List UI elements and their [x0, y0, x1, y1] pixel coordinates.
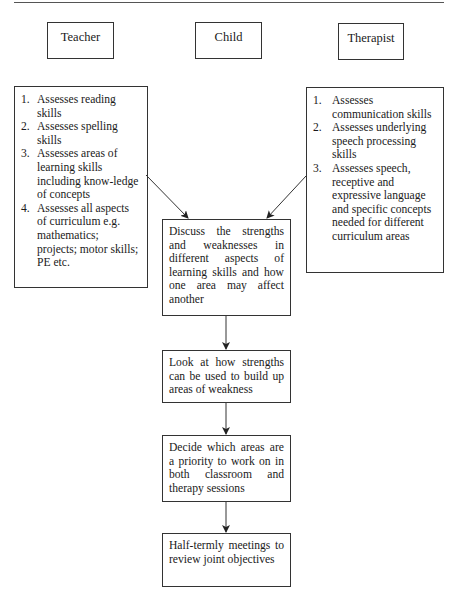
therapist-list-item: 2. Assesses underlying speech processing… [313, 121, 437, 162]
item-number: 4. [21, 202, 30, 216]
strengths-step-box: Look at how strengths can be used to bui… [162, 350, 291, 403]
item-text: Assesses reading skills [37, 93, 116, 120]
item-number: 1. [313, 94, 322, 108]
meetings-step-text: Half-termly meetings to review joint obj… [169, 539, 284, 566]
teacher-list-item: 3. Assesses areas of learning skills inc… [21, 147, 141, 201]
teacher-label: Teacher [61, 30, 100, 44]
therapist-list-item: 3. Assesses speech, receptive and expres… [313, 162, 437, 244]
arrow-teacher-to-discuss [146, 175, 188, 218]
item-number: 3. [313, 162, 322, 176]
item-text: Assesses communication skills [332, 94, 432, 121]
item-number: 3. [21, 147, 30, 161]
strengths-step-text: Look at how strengths can be used to bui… [169, 356, 284, 396]
discuss-step-box: Discuss the strengths and weaknesses in … [162, 219, 291, 316]
item-text: Assesses all aspects of curriculum e.g. … [37, 202, 138, 269]
item-number: 1. [21, 93, 30, 107]
meetings-step-box: Half-termly meetings to review joint obj… [162, 533, 291, 587]
item-number: 2. [313, 121, 322, 135]
teacher-list-item: 4. Assesses all aspects of curriculum e.… [21, 202, 141, 270]
teacher-assessment-list: 1. Assesses reading skills 2. Assesses s… [14, 86, 148, 288]
therapist-box: Therapist [338, 23, 404, 60]
arrow-therapist-to-discuss [267, 176, 306, 218]
priority-step-box: Decide which areas are a priority to wor… [162, 435, 291, 502]
item-text: Assesses areas of learning skills includ… [37, 147, 138, 201]
child-box: Child [195, 22, 262, 59]
item-text: Assesses speech, receptive and expressiv… [332, 162, 431, 243]
item-number: 2. [21, 120, 30, 134]
priority-step-text: Decide which areas are a priority to wor… [169, 441, 284, 495]
item-text: Assesses spelling skills [37, 120, 118, 147]
discuss-step-text: Discuss the strengths and weaknesses in … [169, 225, 284, 306]
teacher-box: Teacher [47, 22, 114, 59]
top-rule [14, 2, 444, 3]
teacher-list-item: 2. Assesses spelling skills [21, 120, 141, 147]
item-text: Assesses underlying speech processing sk… [332, 121, 426, 161]
teacher-list-item: 1. Assesses reading skills [21, 93, 141, 120]
therapist-assessment-list: 1. Assesses communication skills 2. Asse… [306, 87, 444, 273]
therapist-list-item: 1. Assesses communication skills [313, 94, 437, 121]
child-label: Child [215, 30, 243, 44]
therapist-label: Therapist [347, 31, 394, 45]
